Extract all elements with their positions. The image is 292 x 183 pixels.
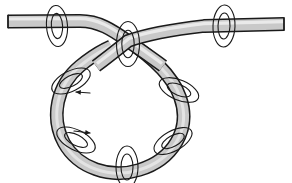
looped-tube-diagram: Looped tube with crossing and twist mark…: [0, 0, 292, 183]
tube-right-tail: [96, 22, 284, 66]
figure-container: Looped tube with crossing and twist mark…: [0, 0, 292, 183]
twist-direction-arrow-upper-left: [76, 92, 90, 93]
